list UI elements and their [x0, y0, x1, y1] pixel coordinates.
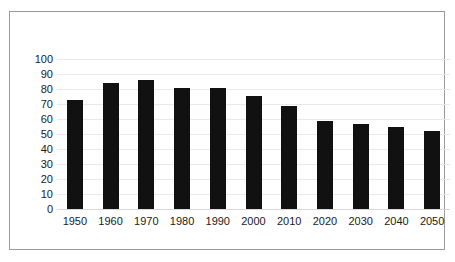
bar-1980	[174, 88, 190, 210]
bar-1970	[138, 80, 154, 209]
x-tick-label-2020: 2020	[305, 215, 345, 228]
x-tick-label-1950: 1950	[55, 215, 95, 228]
bar-series	[57, 59, 450, 209]
bar-2000	[246, 96, 262, 209]
y-tick-label-40: 40	[19, 144, 53, 155]
y-tick-label-70: 70	[19, 99, 53, 110]
x-tick-label-1990: 1990	[198, 215, 238, 228]
bar-2010	[281, 106, 297, 209]
x-tick-label-2010: 2010	[269, 215, 309, 228]
y-axis-tick-labels: 0102030405060708090100	[19, 59, 53, 209]
x-tick-label-1960: 1960	[91, 215, 131, 228]
y-tick-label-20: 20	[19, 174, 53, 185]
y-tick-label-80: 80	[19, 84, 53, 95]
bar-2040	[388, 127, 404, 210]
y-tick-label-50: 50	[19, 129, 53, 140]
x-tick-label-2030: 2030	[341, 215, 381, 228]
y-tick-label-90: 90	[19, 69, 53, 80]
bar-1960	[103, 83, 119, 209]
x-tick-label-2050: 2050	[412, 215, 452, 228]
x-tick-label-2040: 2040	[376, 215, 416, 228]
chart-figure: 0102030405060708090100 19501960197019801…	[0, 0, 455, 262]
bar-2050	[424, 131, 440, 209]
bar-1950	[67, 100, 83, 210]
plot-area	[57, 59, 450, 209]
bar-1990	[210, 88, 226, 209]
y-tick-label-0: 0	[19, 204, 53, 215]
y-tick-label-10: 10	[19, 189, 53, 200]
x-tick-label-1970: 1970	[126, 215, 166, 228]
x-tick-label-2000: 2000	[234, 215, 274, 228]
y-tick-label-100: 100	[19, 54, 53, 65]
x-tick-label-1980: 1980	[162, 215, 202, 228]
bar-2030	[353, 124, 369, 210]
y-tick-label-60: 60	[19, 114, 53, 125]
bar-2020	[317, 121, 333, 210]
gridline-0	[57, 209, 450, 210]
chart-frame: 0102030405060708090100 19501960197019801…	[9, 11, 445, 250]
y-tick-label-30: 30	[19, 159, 53, 170]
x-axis-tick-labels: 1950196019701980199020002010202020302040…	[57, 215, 450, 231]
